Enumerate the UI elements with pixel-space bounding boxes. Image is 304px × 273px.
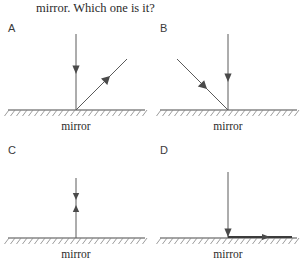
panel-c-reflected-arrowhead <box>73 205 79 212</box>
panel-a-incident-arrowhead <box>72 66 79 75</box>
panel-b-second-arrowhead <box>224 74 231 83</box>
mirror-hatching <box>157 238 300 244</box>
panel-b-mirror-label: mirror <box>152 120 304 132</box>
panel-c-incident-arrowhead <box>73 193 79 200</box>
question-text: mirror. Which one is it? <box>36 1 155 16</box>
panel-c: C mirror <box>0 142 152 266</box>
panel-d-incident-arrowhead <box>224 229 231 238</box>
panel-b: B mirror <box>152 20 304 144</box>
mirror-hatching <box>5 110 148 116</box>
mirror-hatching <box>157 110 300 116</box>
panel-a-mirror-label: mirror <box>0 120 152 132</box>
mirror-hatching <box>5 238 148 244</box>
question-figure: mirror. Which one is it? A <box>0 0 304 273</box>
panel-d-reflected-arrowhead <box>262 234 270 240</box>
panel-a-reflected-ray <box>76 59 127 110</box>
panel-d-mirror-label: mirror <box>152 248 304 260</box>
panel-d: D mirror <box>152 142 304 266</box>
panel-c-mirror-label: mirror <box>0 248 152 260</box>
panel-a: A mirror <box>0 20 152 144</box>
